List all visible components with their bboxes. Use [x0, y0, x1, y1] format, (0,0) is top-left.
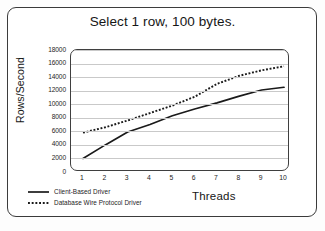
- x-tick-label: 6: [186, 174, 202, 181]
- y-tick-label: 4000: [30, 140, 66, 147]
- x-tick-label: 9: [253, 174, 269, 181]
- x-tick-label: 3: [119, 174, 135, 181]
- y-tick-label: 14000: [30, 73, 66, 80]
- y-tick-label: 16000: [30, 59, 66, 66]
- dotted-line-icon: [28, 199, 49, 207]
- solid-line-icon: [28, 188, 49, 196]
- x-tick-label: 1: [74, 174, 90, 181]
- x-tick-label: 5: [163, 174, 179, 181]
- y-tick-label: 18000: [30, 46, 66, 53]
- legend-item: Database Wire Protocol Driver: [28, 197, 188, 208]
- y-axis-title: Rows/Second: [14, 44, 26, 136]
- gridline: [71, 131, 288, 132]
- chart-legend: Client-Based DriverDatabase Wire Protoco…: [28, 186, 188, 208]
- gridline: [71, 77, 288, 78]
- y-tick-label: 6000: [30, 127, 66, 134]
- gridline: [71, 158, 288, 159]
- gridline: [71, 50, 288, 51]
- x-axis-tick-labels: 12345678910: [70, 174, 289, 186]
- gridline: [71, 145, 288, 146]
- legend-item: Client-Based Driver: [28, 186, 188, 197]
- y-tick-label: 8000: [30, 113, 66, 120]
- x-tick-label: 10: [275, 174, 291, 181]
- chart-figure: Select 1 row, 100 bytes. Rows/Second 180…: [0, 0, 325, 231]
- gridline: [71, 104, 288, 105]
- x-axis-title: Threads: [192, 190, 282, 202]
- y-tick-label: 2000: [30, 154, 66, 161]
- y-tick-label: 12000: [30, 86, 66, 93]
- x-tick-label: 2: [96, 174, 112, 181]
- legend-label: Client-Based Driver: [54, 188, 110, 195]
- y-axis-tick-labels: 1800016000140001200010000800060004000200…: [30, 44, 66, 176]
- chart-title: Select 1 row, 100 bytes.: [0, 14, 325, 29]
- x-tick-label: 7: [208, 174, 224, 181]
- plot-area: [70, 49, 289, 171]
- y-tick-label: 10000: [30, 100, 66, 107]
- y-tick-label: 0: [30, 168, 66, 175]
- gridline: [71, 91, 288, 92]
- plot-lines: [71, 50, 289, 171]
- gridline: [71, 118, 288, 119]
- gridline: [71, 64, 288, 65]
- x-tick-label: 4: [141, 174, 157, 181]
- legend-label: Database Wire Protocol Driver: [54, 199, 142, 206]
- series-line: [83, 87, 284, 158]
- x-tick-label: 8: [230, 174, 246, 181]
